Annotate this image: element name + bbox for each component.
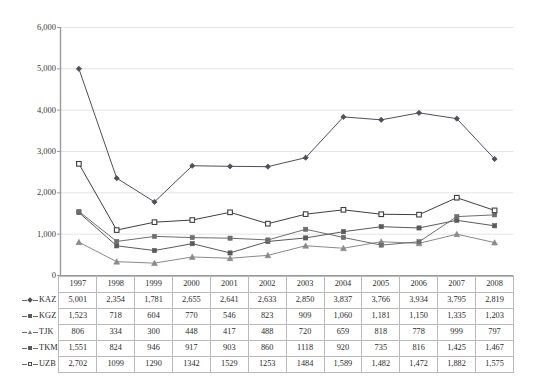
data-point-uzb <box>77 162 82 167</box>
data-point-tkm <box>304 227 308 231</box>
table-column-header: 2004 <box>324 277 362 293</box>
data-point-tjk <box>76 239 82 244</box>
table-cell: 1,181 <box>362 309 400 325</box>
table-column-header: 2008 <box>476 277 514 293</box>
data-point-tkm <box>228 236 232 240</box>
table-cell: 1,575 <box>476 357 514 373</box>
legend-line-segment <box>33 348 38 349</box>
table-cell: 448 <box>173 325 211 341</box>
legend-marker-triangle-icon <box>28 330 32 334</box>
y-axis-tick-label: 6,000 <box>12 23 56 32</box>
table-column-header: 2005 <box>362 277 400 293</box>
legend-line-segment <box>33 332 38 333</box>
legend-line-segment <box>22 332 27 333</box>
data-point-tkm <box>266 238 270 242</box>
table-cell: 1,551 <box>59 341 97 357</box>
data-point-tkm <box>455 215 459 219</box>
series-label: TKM <box>39 344 58 352</box>
legend-marker-group: UZB <box>22 360 58 368</box>
table-cell: 3,795 <box>438 293 476 309</box>
legend-line-segment <box>22 300 27 301</box>
table-cell: 604 <box>135 309 173 325</box>
table-cell: 5,001 <box>59 293 97 309</box>
table-column-header: 1999 <box>135 277 173 293</box>
table-cell: 770 <box>173 309 211 325</box>
table-column-header: 2002 <box>248 277 286 293</box>
table-cell: 909 <box>286 309 324 325</box>
table-corner-cell <box>21 277 59 293</box>
data-point-uzb <box>417 212 422 217</box>
table-cell: 946 <box>135 341 173 357</box>
table-cell: 488 <box>248 325 286 341</box>
table-cell: 823 <box>248 309 286 325</box>
table-cell: 920 <box>324 341 362 357</box>
table-cell: 334 <box>97 325 135 341</box>
legend-row-tkm: TKM <box>21 341 59 357</box>
table-cell: 718 <box>97 309 135 325</box>
legend-line-segment <box>33 300 38 301</box>
table-cell: 1,425 <box>438 341 476 357</box>
table-cell: 1118 <box>286 341 324 357</box>
plot-svg <box>0 0 537 278</box>
data-point-uzb <box>492 208 497 213</box>
y-axis-tick-label: 2,000 <box>12 188 56 197</box>
table-cell: 1,589 <box>324 357 362 373</box>
table-row: UZB2,7021099129013421529125314841,5891,4… <box>21 357 514 373</box>
data-point-kgz <box>228 251 232 255</box>
data-point-kgz <box>493 224 497 228</box>
series-label: KAZ <box>39 296 56 304</box>
table-cell: 1342 <box>173 357 211 373</box>
data-point-uzb <box>152 220 157 225</box>
table-cell: 2,850 <box>286 293 324 309</box>
series-kaz <box>76 66 497 204</box>
legend-marker-square-open-icon <box>28 362 32 366</box>
table-row: TJK806334300448417488720659818778999797 <box>21 325 514 341</box>
y-axis-tick-labels: 01,0002,0003,0004,0005,0006,000 <box>8 0 56 278</box>
legend-marker-square-filled-icon <box>28 314 32 318</box>
table-column-header: 1997 <box>59 277 97 293</box>
data-point-uzb <box>379 212 384 217</box>
table-cell: 824 <box>97 341 135 357</box>
table-cell: 1,335 <box>438 309 476 325</box>
data-point-uzb <box>455 195 460 200</box>
table-cell: 659 <box>324 325 362 341</box>
legend-marker-group: TKM <box>22 344 58 352</box>
table-cell: 2,655 <box>173 293 211 309</box>
legend-row-uzb: UZB <box>21 357 59 373</box>
data-point-tkm <box>417 240 421 244</box>
table-cell: 806 <box>59 325 97 341</box>
table-cell: 2,354 <box>97 293 135 309</box>
y-axis-tick-label: 5,000 <box>12 64 56 73</box>
data-point-uzb <box>341 208 346 213</box>
table-cell: 1529 <box>210 357 248 373</box>
legend-marker-square-filled-icon <box>28 346 32 350</box>
legend-line-segment <box>22 364 27 365</box>
legend-marker-group: KGZ <box>22 312 58 320</box>
table-cell: 1,203 <box>476 309 514 325</box>
data-point-tkm <box>379 243 383 247</box>
table-cell: 860 <box>248 341 286 357</box>
data-point-kaz <box>227 164 232 169</box>
data-point-tkm <box>190 235 194 239</box>
legend-row-tjk: TJK <box>21 325 59 341</box>
data-table-container: 1997199819992000200120022003200420052006… <box>21 276 514 373</box>
table-cell: 816 <box>400 341 438 357</box>
series-tkm <box>77 209 497 247</box>
data-point-uzb <box>303 212 308 217</box>
legend-line-segment <box>22 316 27 317</box>
table-cell: 2,633 <box>248 293 286 309</box>
table-cell: 818 <box>362 325 400 341</box>
table-cell: 778 <box>400 325 438 341</box>
table-cell: 546 <box>210 309 248 325</box>
table-column-header: 1998 <box>97 277 135 293</box>
table-cell: 797 <box>476 325 514 341</box>
data-point-kaz <box>265 164 270 169</box>
data-point-tkm <box>493 213 497 217</box>
table-cell: 2,819 <box>476 293 514 309</box>
series-kgz <box>77 210 497 255</box>
table-column-header: 2000 <box>173 277 211 293</box>
table-cell: 999 <box>438 325 476 341</box>
data-point-kgz <box>379 225 383 229</box>
data-point-tkm <box>152 234 156 238</box>
y-axis-tick-label: 4,000 <box>12 106 56 115</box>
